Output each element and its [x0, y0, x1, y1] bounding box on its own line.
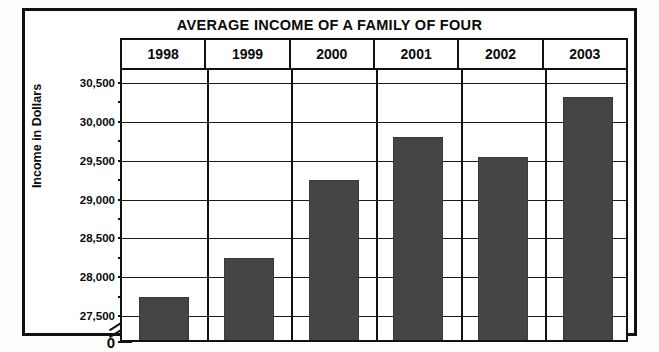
y-axis-label: Income in Dollars [30, 71, 44, 201]
bars-layer [122, 70, 626, 340]
year-header-row: 199819992000200120022003 [120, 38, 628, 70]
year-label: 1998 [148, 46, 179, 62]
bar-2000 [309, 180, 359, 342]
bar-2001 [393, 137, 443, 342]
year-cell-2002: 2002 [459, 40, 543, 68]
year-label: 2001 [401, 46, 432, 62]
plot-area: 199819992000200120022003 [120, 38, 628, 342]
y-tick-label-29500: 29,500 [47, 155, 115, 167]
year-label: 1999 [232, 46, 263, 62]
y-tick-label-zero: 0 [47, 334, 115, 351]
bar-1999 [224, 258, 274, 342]
year-cell-2001: 2001 [375, 40, 459, 68]
y-tick-label-27500: 27,500 [47, 310, 115, 322]
chart-grid [120, 70, 628, 342]
year-label: 2003 [569, 46, 600, 62]
chart-frame: AVERAGE INCOME OF A FAMILY OF FOUR Incom… [22, 8, 637, 336]
bar-2002 [478, 157, 528, 342]
y-tick-label-29000: 29,000 [47, 194, 115, 206]
year-cell-2000: 2000 [291, 40, 375, 68]
y-tick-label-30500: 30,500 [47, 77, 115, 89]
chart-title: AVERAGE INCOME OF A FAMILY OF FOUR [25, 17, 634, 33]
year-cell-2003: 2003 [544, 40, 626, 68]
year-cell-1999: 1999 [206, 40, 290, 68]
year-label: 2000 [316, 46, 347, 62]
y-tick-label-28000: 28,000 [47, 271, 115, 283]
y-tick-label-28500: 28,500 [47, 232, 115, 244]
chart-page: AVERAGE INCOME OF A FAMILY OF FOUR Incom… [0, 0, 659, 352]
y-tick-label-30000: 30,000 [47, 116, 115, 128]
year-label: 2002 [485, 46, 516, 62]
bar-2003 [563, 97, 613, 342]
bar-1998 [139, 297, 189, 342]
year-cell-1998: 1998 [122, 40, 206, 68]
